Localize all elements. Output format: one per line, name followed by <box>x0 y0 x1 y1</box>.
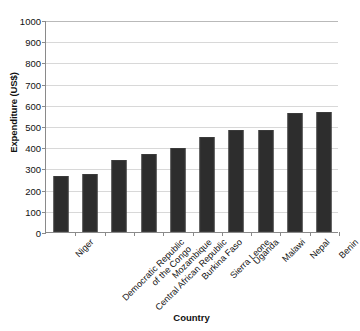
x-axis-category-label: Benin <box>337 237 360 260</box>
x-axis-category-labels: NigerDemocratic Republicof the CongoCent… <box>45 237 338 307</box>
y-axis-tick-label: 500 <box>4 122 46 133</box>
x-axis-title: Country <box>45 312 338 323</box>
x-axis-category-label-line: Malawi <box>280 237 307 264</box>
y-axis-tick-label: 1000 <box>4 16 46 27</box>
x-axis-tick-mark <box>280 232 281 236</box>
y-axis-title: Expenditure (US$) <box>8 53 19 173</box>
bar[interactable] <box>200 137 215 232</box>
x-axis-tick-mark <box>251 232 252 236</box>
bar-slot <box>310 21 339 232</box>
bar[interactable] <box>288 113 303 232</box>
bar-slot <box>134 21 163 232</box>
x-axis-tick-mark <box>193 232 194 236</box>
plot-area: 01002003004005006007008009001000 <box>45 21 338 233</box>
x-axis-category-label: Nepal <box>308 237 332 261</box>
x-axis-tick-mark <box>105 232 106 236</box>
bar-slot <box>280 21 309 232</box>
y-axis-tick-label: 600 <box>4 100 46 111</box>
bar[interactable] <box>141 154 156 232</box>
x-axis-tick-mark <box>339 232 340 236</box>
bar[interactable] <box>112 160 127 233</box>
bar[interactable] <box>53 176 68 232</box>
x-axis-category-label-line: Niger <box>73 237 95 259</box>
bar-slot <box>75 21 104 232</box>
bar[interactable] <box>82 174 97 232</box>
y-axis-tick-label: 400 <box>4 143 46 154</box>
bar[interactable] <box>258 130 273 232</box>
y-axis-tick-label: 300 <box>4 164 46 175</box>
bar[interactable] <box>170 148 185 232</box>
y-axis-tick-label: 700 <box>4 79 46 90</box>
x-axis-category-label: Niger <box>73 237 95 259</box>
bar-slot <box>105 21 134 232</box>
y-axis-tick-label: 100 <box>4 206 46 217</box>
y-axis-tick-label: 900 <box>4 37 46 48</box>
y-axis-tick-mark <box>42 233 46 234</box>
x-axis-category-label-line: Nepal <box>308 237 332 261</box>
x-axis-tick-mark <box>75 232 76 236</box>
x-axis-tick-mark <box>310 232 311 236</box>
x-axis-tick-mark <box>222 232 223 236</box>
y-axis-tick-label: 200 <box>4 185 46 196</box>
x-axis-category-label: Malawi <box>280 237 307 264</box>
x-axis-tick-mark <box>163 232 164 236</box>
bar-slot <box>163 21 192 232</box>
bars-layer <box>46 21 338 232</box>
bar-slot <box>193 21 222 232</box>
y-axis-tick-label: 0 <box>4 228 46 239</box>
bar[interactable] <box>317 112 332 232</box>
bar-slot <box>222 21 251 232</box>
y-axis-tick-label: 800 <box>4 58 46 69</box>
bar[interactable] <box>229 130 244 232</box>
x-axis-category-label-line: Benin <box>337 237 360 260</box>
bar-slot <box>251 21 280 232</box>
x-axis-tick-mark <box>134 232 135 236</box>
bar-slot <box>46 21 75 232</box>
